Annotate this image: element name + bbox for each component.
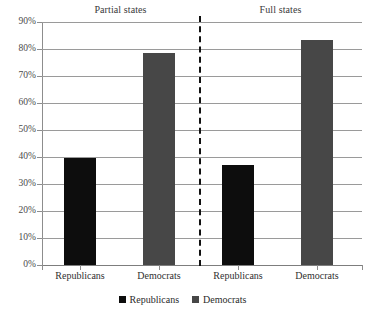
bar-republicans-2[interactable] bbox=[222, 165, 254, 265]
legend-swatch-icon bbox=[192, 296, 199, 303]
x-tick-mark bbox=[42, 265, 43, 270]
y-tick-label: 50% bbox=[2, 125, 36, 135]
y-tick-label: 30% bbox=[2, 179, 36, 189]
gridline bbox=[42, 22, 362, 23]
bar-democrats-1[interactable] bbox=[143, 53, 175, 265]
legend-item-democrats[interactable]: Democrats bbox=[192, 294, 246, 305]
plot-area bbox=[42, 22, 362, 265]
y-tick-label: 70% bbox=[2, 71, 36, 81]
group-divider bbox=[199, 16, 201, 266]
chart-legend: RepublicansDemocrats bbox=[0, 294, 365, 305]
gridline bbox=[42, 265, 362, 266]
x-axis-label-2: Republicans bbox=[193, 270, 283, 281]
y-tick-label: 40% bbox=[2, 152, 36, 162]
bar-democrats-3[interactable] bbox=[301, 40, 333, 265]
legend-swatch-icon bbox=[119, 296, 126, 303]
x-axis-label-0: Republicans bbox=[35, 270, 125, 281]
legend-item-republicans[interactable]: Republicans bbox=[119, 294, 179, 305]
legend-label: Democrats bbox=[203, 294, 246, 305]
y-tick-label: 60% bbox=[2, 98, 36, 108]
group-header-full-states: Full states bbox=[199, 4, 362, 15]
bar-republicans-0[interactable] bbox=[64, 158, 96, 265]
y-tick-label: 20% bbox=[2, 206, 36, 216]
bar-chart: Partial states Full states 90%80%70%60%5… bbox=[0, 0, 365, 318]
x-axis-label-3: Democrats bbox=[272, 270, 362, 281]
y-tick-label: 90% bbox=[2, 17, 36, 27]
x-tick-mark bbox=[362, 265, 363, 270]
y-tick-label: 80% bbox=[2, 44, 36, 54]
y-axis: 90%80%70%60%50%40%30%20%10%0% bbox=[0, 0, 36, 318]
legend-label: Republicans bbox=[130, 294, 179, 305]
y-tick-label: 10% bbox=[2, 233, 36, 243]
group-header-partial-states: Partial states bbox=[42, 4, 199, 15]
x-axis-label-1: Democrats bbox=[114, 270, 204, 281]
y-tick-label: 0% bbox=[2, 260, 36, 270]
